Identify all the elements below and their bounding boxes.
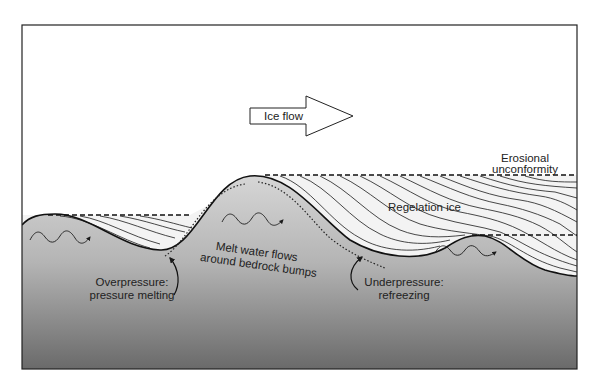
underpressure-label-2: refreezing — [378, 289, 429, 301]
overpressure-label-2: pressure melting — [89, 289, 174, 301]
ice-flow-label: Ice flow — [264, 110, 304, 122]
glacier-diagram: Ice flow Erosional unconformity Regelati… — [0, 0, 600, 382]
overpressure-label-1: Overpressure: — [96, 276, 169, 288]
regelation-label: Regelation ice — [388, 201, 461, 213]
underpressure-label-1: Underpressure: — [364, 276, 443, 288]
erosional-label-2: unconformity — [492, 163, 558, 175]
